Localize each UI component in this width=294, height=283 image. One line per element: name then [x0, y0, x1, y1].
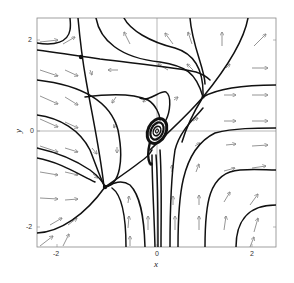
y-tick-label: 0	[30, 127, 34, 134]
x-tick-label: 0	[155, 250, 159, 257]
x-tick-label: -2	[53, 250, 59, 257]
node-point-lower-left	[103, 185, 107, 189]
phase-portrait-plot	[0, 0, 294, 283]
saddle-point-upper-left	[79, 55, 83, 59]
y-tick-label: 2	[28, 36, 32, 43]
saddle-point-below-spiral	[149, 162, 153, 166]
y-axis-label: y	[13, 129, 23, 133]
y-tick-label: -2	[26, 223, 32, 230]
saddle-point-upper-right	[201, 95, 204, 98]
x-axis-label: x	[154, 259, 158, 269]
x-tick-label: 2	[250, 250, 254, 257]
